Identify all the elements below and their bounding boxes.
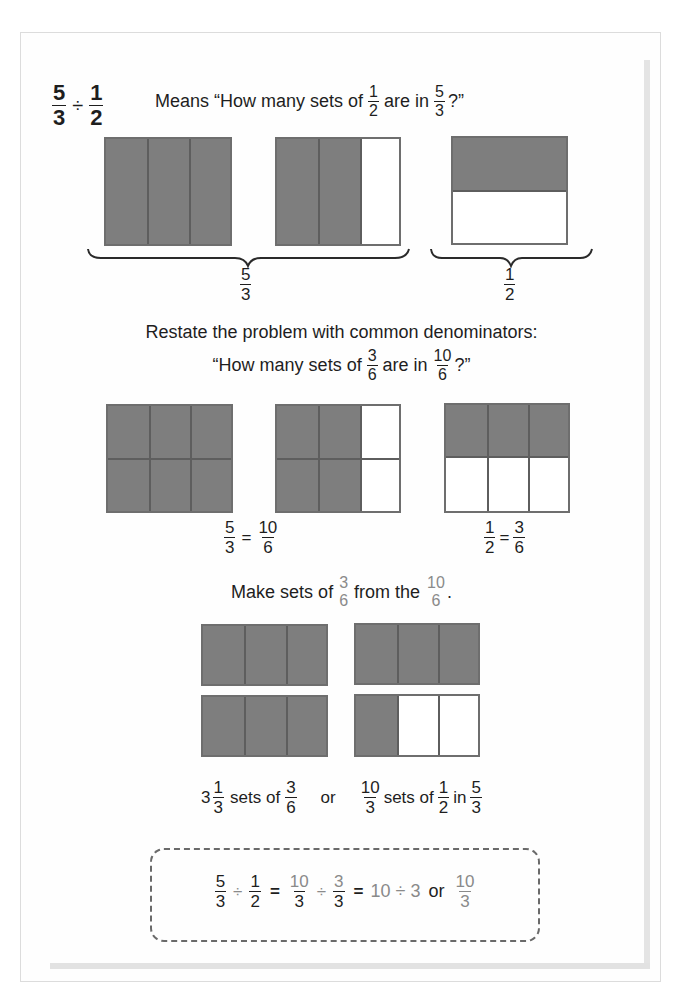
set-three — [201, 695, 328, 757]
restated-question: “How many sets of 36 are in 106 ?” — [0, 348, 683, 383]
frame-shadow-bottom — [50, 963, 650, 969]
problem-expression: 53 ÷ 12 — [50, 82, 105, 129]
fraction: 12 — [89, 82, 103, 129]
model-one-half — [451, 136, 568, 245]
model-whole-thirds — [104, 137, 232, 246]
fraction: 12 — [368, 84, 379, 119]
make-sets-instruction: Make sets of 36 from the 106 . — [0, 575, 683, 609]
frame-shadow-right — [644, 60, 650, 968]
label-five-thirds: 53 — [238, 266, 253, 303]
meaning-text: Means “How many sets of 12 are in 53 ?” — [155, 84, 464, 119]
equivalence-five-thirds: 53 = 106 — [222, 519, 280, 556]
set-partial — [354, 694, 480, 757]
equivalence-one-half: 12 = 36 — [482, 519, 527, 556]
summary-statement: 3 13 sets of 36 or 103 sets of 12 in 53 — [0, 779, 683, 816]
divide-sign: ÷ — [72, 94, 83, 117]
restate-instruction: Restate the problem with common denomina… — [0, 322, 683, 343]
model-three-sixths — [444, 403, 570, 513]
set-one — [201, 624, 328, 686]
fraction: 53 — [434, 84, 445, 119]
label-one-half: 12 — [502, 266, 517, 303]
model-two-thirds — [275, 137, 401, 246]
model-four-sixths — [275, 404, 401, 513]
fraction: 53 — [52, 82, 66, 129]
model-six-sixths — [106, 404, 233, 513]
final-equation: 53 ÷ 12 = 103 ÷ 33 = 10 ÷ 3 or 103 — [150, 873, 540, 910]
brace-five-thirds — [85, 246, 415, 268]
set-two — [354, 623, 480, 685]
